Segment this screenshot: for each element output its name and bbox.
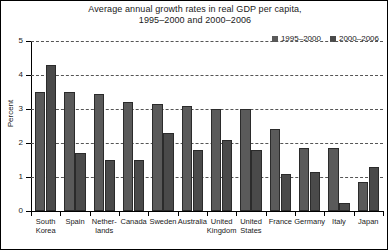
x-tick-mark: [383, 211, 384, 216]
y-tick-mark-2: [26, 143, 31, 144]
bar-group: [207, 41, 236, 211]
bar-group: [148, 41, 177, 211]
x-tick-mark: [207, 211, 208, 216]
y-tick-label-5: 5: [1, 36, 23, 45]
bar: [94, 94, 105, 211]
x-axis-category-label-line: States: [232, 226, 269, 235]
y-axis-label: Percent: [6, 89, 15, 139]
y-tick-mark-4: [26, 75, 31, 76]
bar-group: [236, 41, 265, 211]
bar: [46, 65, 57, 211]
y-tick-label-1: 1: [1, 172, 23, 181]
bar-group: [178, 41, 207, 211]
bar: [328, 148, 339, 211]
x-axis-category-label-line: lands: [86, 226, 123, 235]
bar: [134, 160, 145, 211]
bar: [123, 102, 134, 211]
bar: [281, 174, 292, 211]
bar: [299, 148, 310, 211]
bar: [193, 150, 204, 211]
y-tick-mark-5: [26, 41, 31, 42]
bar: [211, 109, 222, 211]
bar-group: [60, 41, 89, 211]
x-tick-mark: [324, 211, 325, 216]
bar: [152, 104, 163, 211]
x-tick-mark: [236, 211, 237, 216]
x-axis-category-label-line: Korea: [27, 226, 64, 235]
bar-group: [31, 41, 60, 211]
x-tick-mark: [31, 211, 32, 216]
bar-group: [354, 41, 383, 211]
x-tick-mark: [60, 211, 61, 216]
bar: [163, 133, 174, 211]
x-axis-category-label: Japan: [350, 217, 387, 226]
bar: [222, 140, 233, 211]
x-tick-mark: [119, 211, 120, 216]
x-tick-mark: [90, 211, 91, 216]
chart-title: Average annual growth rates in real GDP …: [1, 4, 388, 26]
bar: [105, 160, 116, 211]
bar: [310, 172, 321, 211]
y-tick-label-3: 3: [1, 104, 23, 113]
bar: [270, 129, 281, 211]
bar: [339, 203, 350, 212]
x-tick-mark: [266, 211, 267, 216]
plot-area: [31, 41, 383, 211]
bar-group: [90, 41, 119, 211]
bar-group: [119, 41, 148, 211]
bar: [358, 182, 369, 211]
chart-title-line-1: Average annual growth rates in real GDP …: [1, 4, 388, 15]
bar: [64, 92, 75, 211]
bar-group: [324, 41, 353, 211]
y-tick-mark-1: [26, 177, 31, 178]
y-tick-mark-3: [26, 109, 31, 110]
x-tick-mark: [354, 211, 355, 216]
bar-group: [295, 41, 324, 211]
bar: [75, 153, 86, 211]
y-tick-label-4: 4: [1, 70, 23, 79]
chart-figure: Average annual growth rates in real GDP …: [0, 0, 388, 250]
bar: [240, 109, 251, 211]
x-tick-mark: [148, 211, 149, 216]
bar: [369, 167, 380, 211]
bar: [251, 150, 262, 211]
y-tick-label-0: 0: [1, 206, 23, 215]
x-tick-mark: [178, 211, 179, 216]
x-axis-category-label-line: Japan: [350, 217, 387, 226]
bar-group: [266, 41, 295, 211]
chart-title-line-2: 1995–2000 and 2000–2006: [1, 15, 388, 26]
x-tick-mark: [295, 211, 296, 216]
y-tick-label-2: 2: [1, 138, 23, 147]
bar: [182, 106, 193, 211]
bar: [35, 92, 46, 211]
